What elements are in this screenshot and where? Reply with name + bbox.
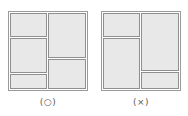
cell-right-tall [141,13,179,71]
cell-bottom-right [48,59,86,89]
diagram-root: (○) (×) [0,0,188,116]
caption-circle-mark: (○) [8,96,88,108]
cell-middle-left [10,38,47,73]
cell-top-right [48,13,86,58]
cell-bottom-right [141,72,179,89]
cell-top-left [10,13,47,37]
cell-lower-left-big [103,38,140,89]
caption-cross-mark: (×) [101,96,181,108]
cell-bottom-left [10,74,47,89]
cell-top-left [103,13,140,37]
